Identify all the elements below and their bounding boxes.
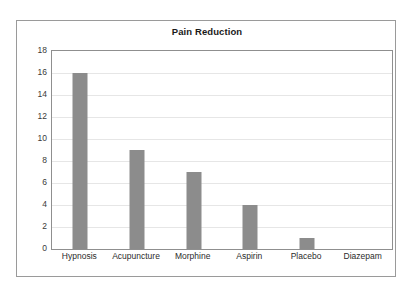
y-axis-tick-label: 14 xyxy=(17,90,47,99)
bar-slot xyxy=(335,51,392,249)
bar[interactable] xyxy=(299,238,314,249)
bar-slot xyxy=(279,51,336,249)
chart-frame: Pain Reduction 024681012141618 HypnosisA… xyxy=(16,20,396,277)
y-axis-tick-label: 8 xyxy=(17,156,47,165)
bars-layer xyxy=(52,51,392,249)
bar[interactable] xyxy=(243,205,258,249)
plot-area xyxy=(51,50,393,250)
y-axis-tick-label: 12 xyxy=(17,112,47,121)
x-axis-category-label: Diazepam xyxy=(344,252,382,261)
y-axis: 024681012141618 xyxy=(17,50,47,248)
y-axis-tick-label: 0 xyxy=(17,244,47,253)
y-axis-tick-label: 18 xyxy=(17,46,47,55)
bar[interactable] xyxy=(73,73,88,249)
y-axis-tick-label: 2 xyxy=(17,222,47,231)
y-axis-tick-label: 16 xyxy=(17,68,47,77)
bar[interactable] xyxy=(186,172,201,249)
chart-title: Pain Reduction xyxy=(17,26,397,37)
bar-slot xyxy=(52,51,109,249)
x-axis-category-label: Acupuncture xyxy=(112,252,160,261)
x-axis-category-label: Aspirin xyxy=(236,252,262,261)
y-axis-tick-label: 4 xyxy=(17,200,47,209)
bar-slot xyxy=(109,51,166,249)
bar-slot xyxy=(165,51,222,249)
x-axis-category-label: Hypnosis xyxy=(62,252,97,261)
x-axis: HypnosisAcupunctureMorphineAspirinPlaceb… xyxy=(51,252,391,270)
bar-slot xyxy=(222,51,279,249)
x-axis-category-label: Morphine xyxy=(175,252,210,261)
y-axis-tick-label: 6 xyxy=(17,178,47,187)
x-axis-category-label: Placebo xyxy=(291,252,322,261)
bar[interactable] xyxy=(129,150,144,249)
y-axis-tick-label: 10 xyxy=(17,134,47,143)
